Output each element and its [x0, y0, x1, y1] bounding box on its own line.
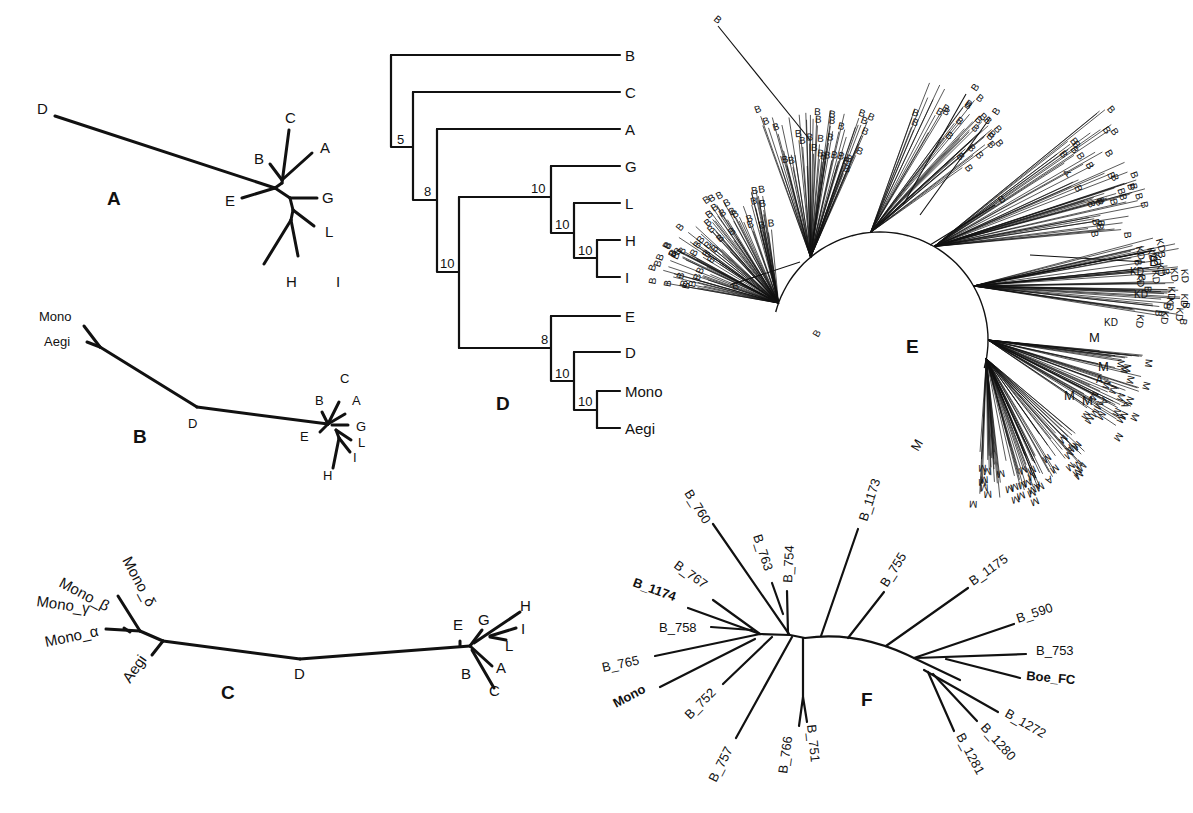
taxon-label: KD	[1159, 310, 1171, 325]
taxon-label: Mono	[39, 309, 72, 324]
taxon-label: KD	[1174, 307, 1186, 322]
taxon-label: M	[978, 463, 987, 474]
branch-h	[333, 438, 339, 468]
branch-b-590	[914, 624, 1014, 658]
panel-label-c: C	[221, 682, 235, 703]
taxon-label: C	[340, 371, 349, 386]
taxon-label: D	[625, 344, 636, 361]
taxon-label: B	[753, 103, 763, 116]
branch-d	[55, 116, 275, 188]
taxon-label: Mono	[610, 681, 648, 711]
taxon-label: KD	[1179, 293, 1190, 307]
taxon-label: I	[625, 269, 629, 286]
phylogeny-figure: D C B A E G L H I A Mono Aegi D C B A E …	[0, 0, 1193, 813]
taxon-label: E	[225, 192, 235, 209]
taxon-label: E	[300, 429, 309, 444]
taxon-label: G	[356, 419, 366, 434]
taxon-label: KD	[1150, 270, 1162, 285]
taxon-label: B	[767, 217, 775, 229]
taxon-label: M	[908, 437, 926, 454]
taxon-label: M	[1089, 330, 1100, 345]
taxon-label: B	[712, 13, 724, 26]
branch-b	[270, 164, 282, 180]
taxon-label: Mono_δ	[119, 553, 159, 609]
taxon-label: Boe_FC	[1026, 668, 1077, 687]
taxon-label: M	[1064, 388, 1075, 403]
branch-b-763	[772, 583, 783, 614]
taxon-label: B	[1105, 103, 1118, 115]
taxon-label: B_752	[682, 685, 719, 722]
taxon-label: B_755	[877, 550, 910, 590]
taxon-label: B_754	[780, 545, 797, 583]
taxon-label: I	[521, 620, 525, 637]
taxon-label: H	[625, 232, 636, 249]
panel-d-cladogram	[391, 55, 620, 428]
taxon-label: G	[625, 158, 637, 175]
branch-d	[300, 646, 470, 659]
taxon-label: M	[1010, 493, 1021, 506]
taxon-label: Aegi	[44, 334, 70, 349]
taxon-label: B_760	[681, 487, 714, 527]
taxon-label: A	[1044, 474, 1056, 487]
panel-b-tree	[84, 326, 351, 468]
taxon-label: B_766	[775, 735, 795, 774]
taxon-label: B_767	[671, 557, 710, 591]
taxon-label: M	[1143, 359, 1155, 368]
branch-b-753	[916, 654, 1026, 658]
taxon-label: B_590	[1014, 600, 1054, 626]
branch-aegi	[152, 641, 163, 655]
branch-i	[291, 220, 298, 256]
taxon-label: B	[1103, 148, 1116, 159]
branch-mono	[660, 639, 755, 687]
bootstrap-value: 10	[555, 217, 569, 232]
taxon-label: B_753	[1036, 643, 1074, 658]
taxon-label: B	[757, 183, 766, 195]
taxon-label: L	[505, 637, 513, 654]
panel-label-e: E	[906, 336, 919, 357]
taxon-label: KD	[1134, 314, 1147, 329]
taxon-label: B_763	[750, 532, 776, 572]
taxon-label: B	[1149, 252, 1159, 269]
taxon-label: M	[1140, 380, 1153, 391]
taxon-label: H	[286, 273, 297, 290]
bootstrap-value: 10	[555, 366, 569, 381]
taxon-label: B	[673, 221, 686, 233]
taxon-label: B	[815, 113, 823, 124]
taxon-label: B_765	[601, 652, 641, 674]
taxon-label: M	[1112, 431, 1126, 444]
taxon-label: L	[625, 195, 633, 212]
panel-f-tree	[655, 524, 1026, 738]
taxon-label: A	[496, 659, 506, 676]
taxon-label: C	[285, 109, 296, 126]
taxon-label: B	[826, 131, 835, 143]
taxon-label: B_1174	[631, 575, 679, 605]
taxon-label: B	[730, 207, 741, 220]
taxon-label: G	[478, 611, 490, 628]
taxon-label: KD	[1130, 266, 1144, 277]
taxon-label: Aegi	[625, 420, 655, 437]
bootstrap-value: 8	[541, 332, 548, 347]
branch-i	[339, 438, 350, 452]
panel-e-tree: BBBBBBBBBBBBBBBBBBBBBBBBBBBBBBBBBBBBBBBB…	[646, 26, 1192, 510]
taxon-label: B	[810, 327, 823, 339]
branch-b-1175	[886, 588, 968, 646]
taxon-label: B	[1139, 200, 1151, 209]
taxon-label: D	[294, 665, 305, 682]
bootstrap-value: 10	[578, 394, 592, 409]
taxon-label: KD	[1179, 269, 1191, 284]
panel-label-d: D	[496, 393, 510, 414]
branch-l	[293, 210, 314, 226]
taxon-label: B	[315, 393, 324, 408]
taxon-label: B	[817, 132, 825, 144]
taxon-label: I	[353, 450, 357, 465]
branch-b-751	[803, 697, 807, 722]
taxon-label: Aegi	[119, 651, 150, 685]
taxon-label: M	[1098, 359, 1109, 374]
taxon-label: C	[489, 682, 500, 699]
taxon-label: D	[37, 100, 48, 117]
taxon-label: B_1281	[953, 730, 987, 777]
branch-e	[320, 424, 328, 432]
bootstrap-value: 5	[397, 132, 404, 147]
panel-label-b: B	[133, 426, 147, 447]
taxon-label: H	[520, 597, 531, 614]
